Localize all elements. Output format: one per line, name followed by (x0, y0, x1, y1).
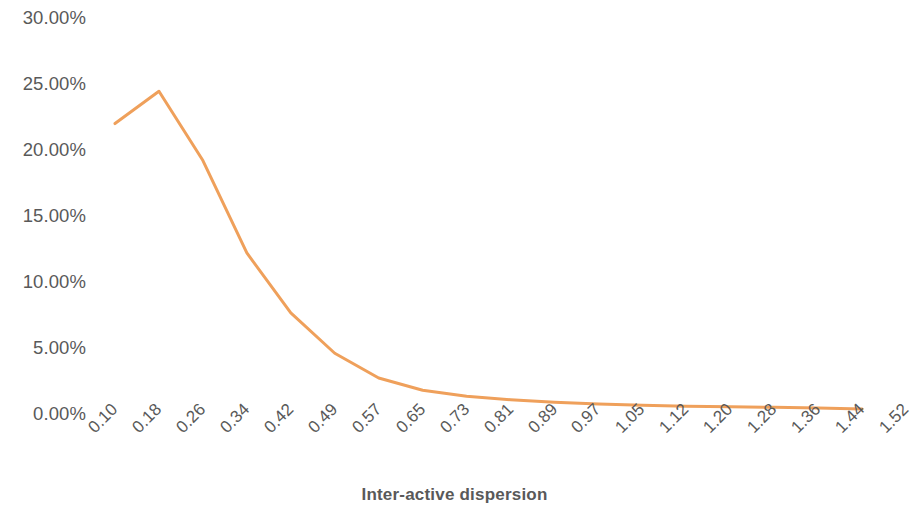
data-series-line (115, 91, 862, 409)
plot-svg (0, 0, 909, 430)
x-axis: 0.100.180.260.340.420.490.570.650.730.81… (0, 414, 909, 480)
plot-area (0, 0, 909, 430)
x-axis-title: Inter-active dispersion (0, 485, 909, 505)
